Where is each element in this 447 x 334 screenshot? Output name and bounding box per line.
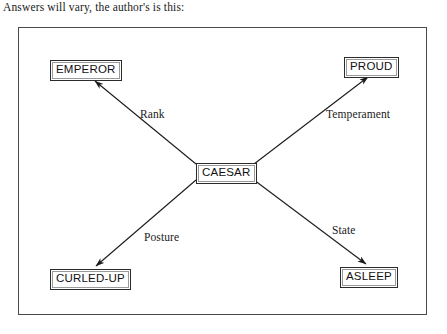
edge-line-rank [95,81,196,164]
node-emperor[interactable]: EMPEROR [50,60,122,81]
edge-line-temperament [254,77,368,164]
edge-label-rank: Rank [140,108,165,120]
figure-caption: Answers will vary, the author's is this: [3,1,184,13]
edge-line-state [254,180,366,264]
node-asleep[interactable]: ASLEEP [340,267,398,288]
edge-label-posture: Posture [144,231,179,243]
figure-page: Answers will vary, the author's is this:… [0,0,447,334]
edge-label-temperament: Temperament [326,108,390,120]
node-proud[interactable]: PROUD [344,57,399,78]
node-curled-up[interactable]: CURLED-UP [50,269,131,290]
edge-label-state: State [332,224,356,236]
edge-line-posture [96,180,196,266]
node-caesar[interactable]: CAESAR [196,163,257,184]
